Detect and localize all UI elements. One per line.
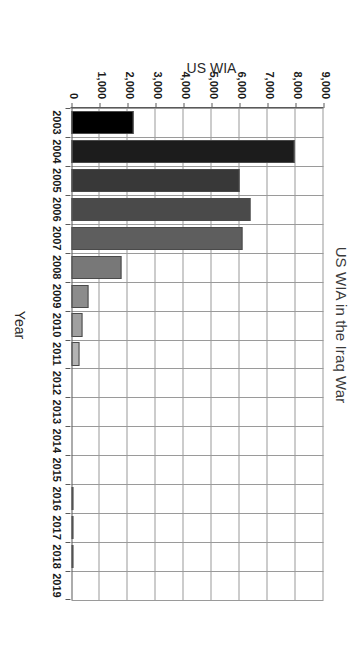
- value-axis-tick-label: 9,000: [319, 71, 331, 99]
- bar-slot: [71, 542, 323, 571]
- value-axis-tick-label: 1,000: [95, 71, 107, 99]
- bar-slot: [71, 340, 323, 369]
- category-axis-tick-label: 2011: [50, 342, 62, 366]
- category-axis-tick: 2016: [24, 484, 70, 513]
- value-axis-tick-label: 4,000: [179, 71, 191, 99]
- category-axis-title: Year: [11, 0, 27, 650]
- tick-mark: [65, 282, 70, 283]
- bar-2003[interactable]: [71, 111, 133, 134]
- category-axis-tick-label: 2006: [50, 197, 62, 221]
- category-axis-tick-label: 2003: [50, 110, 62, 134]
- zero-baseline: [71, 108, 72, 600]
- bar-2009[interactable]: [71, 285, 88, 308]
- category-axis-tick-label: 2018: [50, 544, 62, 568]
- bar-slot: [71, 224, 323, 253]
- bar-slot: [71, 108, 323, 137]
- value-axis-ticks: 9,0008,0007,0006,0005,0004,0003,0002,000…: [71, 0, 323, 108]
- value-axis-tick-label: 6,000: [235, 71, 247, 99]
- category-axis-tick-label: 2019: [50, 573, 62, 597]
- category-axis-tick: 2019: [24, 571, 70, 600]
- plot-area: [71, 108, 323, 600]
- bar-2007[interactable]: [71, 227, 242, 250]
- bar-2005[interactable]: [71, 169, 239, 192]
- category-axis-tick: 2008: [24, 253, 70, 282]
- bar-slot: [71, 137, 323, 166]
- category-axis-tick: 2015: [24, 455, 70, 484]
- category-axis-tick-label: 2016: [50, 486, 62, 510]
- category-axis-tick-label: 2004: [50, 139, 62, 163]
- bar-slot: [71, 195, 323, 224]
- tick-mark: [65, 253, 70, 254]
- value-axis-tick-label: 2,000: [123, 71, 135, 99]
- tick-mark: [65, 513, 70, 514]
- category-axis-tick: 2011: [24, 340, 70, 369]
- category-axis-tick-label: 2012: [50, 371, 62, 395]
- rotated-chart-stage: US WIA in the Iraq War US WIA 9,0008,000…: [0, 0, 357, 650]
- category-axis-tick-label: 2010: [50, 313, 62, 337]
- category-axis-tick: 2017: [24, 513, 70, 542]
- tick-mark: [65, 484, 70, 485]
- bar-slot: [71, 455, 323, 484]
- tick-mark: [65, 137, 70, 138]
- category-axis-tick-label: 2008: [50, 255, 62, 279]
- category-axis-tick: 2005: [24, 166, 70, 195]
- bar-slot: [71, 282, 323, 311]
- bar-2008[interactable]: [71, 256, 121, 279]
- tick-mark: [65, 108, 70, 109]
- category-axis-end-tick: [65, 599, 70, 600]
- tick-mark: [65, 397, 70, 398]
- gridline-vertical: [71, 600, 323, 601]
- tick-mark: [65, 224, 70, 225]
- category-axis-tick-label: 2014: [50, 429, 62, 453]
- bar-slot: [71, 368, 323, 397]
- category-axis-tick-label: 2009: [50, 284, 62, 308]
- category-axis-tick-label: 2007: [50, 226, 62, 250]
- category-axis-tick: 2004: [24, 137, 70, 166]
- category-axis-tick: 2012: [24, 368, 70, 397]
- chart-figure: US WIA in the Iraq War US WIA 9,0008,000…: [0, 0, 357, 650]
- tick-mark: [65, 368, 70, 369]
- bar-2006[interactable]: [71, 198, 250, 221]
- bar-series: [71, 108, 323, 600]
- category-axis-tick: 2007: [24, 224, 70, 253]
- category-axis-tick-label: 2017: [50, 515, 62, 539]
- tick-mark: [65, 166, 70, 167]
- value-axis-tick-label: 3,000: [151, 71, 163, 99]
- tick-mark: [65, 571, 70, 572]
- bar-slot: [71, 571, 323, 600]
- category-axis-tick-label: 2015: [50, 457, 62, 481]
- bar-slot: [71, 484, 323, 513]
- bar-slot: [71, 397, 323, 426]
- value-axis-tick-label: 0: [67, 93, 79, 99]
- bar-slot: [71, 253, 323, 282]
- tick-mark: [65, 311, 70, 312]
- bar-slot: [71, 166, 323, 195]
- tick-mark: [65, 195, 70, 196]
- tick-mark: [65, 542, 70, 543]
- tick-mark: [65, 455, 70, 456]
- category-axis-tick: 2018: [24, 542, 70, 571]
- bar-2010[interactable]: [71, 313, 82, 336]
- category-axis-ticks: 2003200420052006200720082009201020112012…: [24, 108, 70, 600]
- value-axis-tick-label: 5,000: [207, 71, 219, 99]
- value-axis-tick-label: 8,000: [291, 71, 303, 99]
- bar-slot: [71, 311, 323, 340]
- category-axis-tick: 2006: [24, 195, 70, 224]
- bar-slot: [71, 513, 323, 542]
- category-axis-tick-label: 2013: [50, 400, 62, 424]
- bar-2004[interactable]: [71, 140, 294, 163]
- chart-title: US WIA in the Iraq War: [332, 0, 349, 650]
- category-axis-tick: 2009: [24, 282, 70, 311]
- value-axis-tick-label: 7,000: [263, 71, 275, 99]
- category-axis-tick-label: 2005: [50, 168, 62, 192]
- category-axis-tick: 2014: [24, 426, 70, 455]
- tick-mark: [65, 426, 70, 427]
- category-axis-tick: 2013: [24, 397, 70, 426]
- category-axis-tick: 2010: [24, 311, 70, 340]
- category-axis-tick: 2003: [24, 108, 70, 137]
- bar-slot: [71, 426, 323, 455]
- tick-mark: [65, 340, 70, 341]
